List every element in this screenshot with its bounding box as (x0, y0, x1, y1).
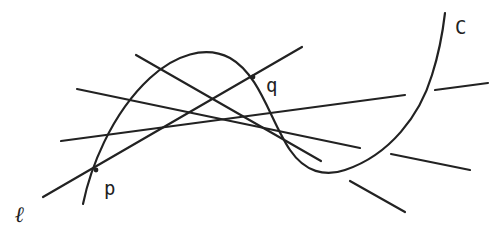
line-c (61, 95, 405, 141)
segment-right-upper (435, 83, 488, 90)
line-b (77, 89, 360, 148)
point-q-marker (251, 75, 256, 80)
point-p-marker (94, 168, 99, 173)
line-l (43, 47, 302, 197)
segment-bottom (350, 181, 405, 212)
label-point-q: q (266, 74, 277, 96)
label-point-p: p (104, 177, 115, 199)
curve-lines-diagram: ℓ p q C (0, 0, 504, 241)
label-curve-c: C (455, 16, 466, 38)
label-line-l: ℓ (15, 201, 24, 227)
curve-c (83, 13, 445, 204)
segment-right-middle (391, 154, 470, 170)
